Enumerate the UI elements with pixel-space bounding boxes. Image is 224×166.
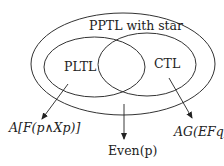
left-set-label: PLTL bbox=[64, 59, 96, 74]
pltl-example-label: A[F(p∧Xp)] bbox=[8, 120, 80, 135]
intersection-example-label: Even(p) bbox=[108, 143, 157, 158]
right-set-label: CTL bbox=[154, 56, 180, 71]
ctl-example-label: AG(EFq) bbox=[173, 124, 224, 139]
outer-set-label: PPTL with star bbox=[89, 18, 183, 33]
pltl-arrow bbox=[42, 84, 68, 119]
ctl-arrow bbox=[169, 78, 192, 118]
venn-diagram: PPTL with star PLTL CTL A[F(p∧Xp)] Even(… bbox=[0, 0, 224, 166]
right-set-ellipse bbox=[98, 33, 196, 96]
